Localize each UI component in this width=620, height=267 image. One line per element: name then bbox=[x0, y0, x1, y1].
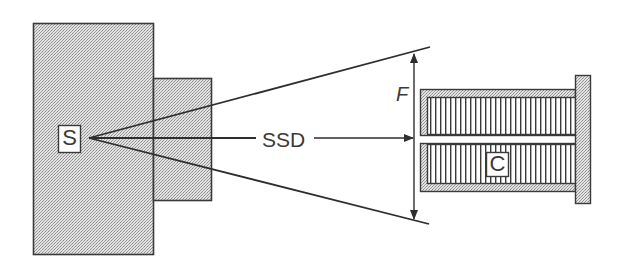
housing-nozzle bbox=[154, 79, 212, 201]
collimator-upper-leaves bbox=[428, 98, 576, 135]
ssd-label: SSD bbox=[262, 129, 305, 150]
collimator-end-plate bbox=[576, 76, 591, 204]
collimator-label: C bbox=[487, 153, 508, 176]
field-size-label: F bbox=[396, 84, 408, 104]
collimator-assembly bbox=[421, 76, 591, 204]
ssd-diagram bbox=[0, 0, 620, 267]
source-label: S bbox=[59, 127, 80, 152]
